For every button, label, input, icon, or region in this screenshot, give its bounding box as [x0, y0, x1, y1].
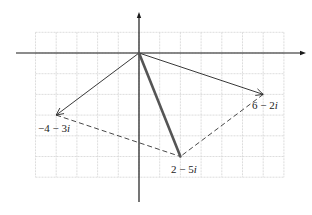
label-sum-main: 2 − 5: [171, 163, 194, 175]
label-sum-i: i: [194, 163, 197, 175]
label-z1-main: 6 − 2: [252, 99, 275, 111]
label-sum: 2 − 5i: [171, 164, 197, 175]
label-z2-main: −4 − 3: [38, 122, 67, 134]
label-z2-i: i: [67, 122, 70, 134]
real-axis-arrowhead-icon: [300, 51, 306, 55]
imaginary-axis-arrowhead-icon: [137, 12, 141, 18]
label-z1-i: i: [275, 99, 278, 111]
label-z1: 6 − 2i: [252, 100, 278, 111]
label-z2: −4 − 3i: [38, 123, 70, 134]
